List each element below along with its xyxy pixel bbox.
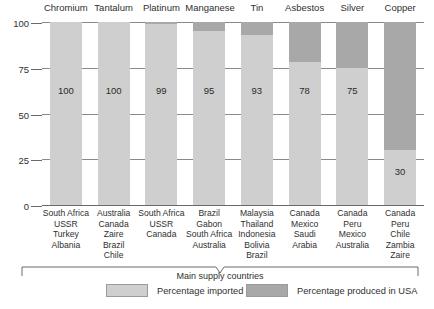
country-name: Mexico [326, 229, 380, 240]
country-name: Brazil [182, 208, 236, 219]
country-name: Australia [182, 240, 236, 251]
country-name: Zambia [373, 240, 427, 251]
country-name: Gabon [182, 219, 236, 230]
country-name: South Africa [135, 208, 189, 219]
supply-countries-silver: CanadaPeruMexicoAustralia [326, 208, 380, 250]
bar-segment-usa [193, 22, 225, 31]
ytick-label-75: 75 [18, 63, 29, 74]
ytick-label-25: 25 [18, 155, 29, 166]
tick-50 [31, 115, 42, 116]
country-name: Bolivia [230, 240, 284, 251]
ytick-label-0: 0 [24, 201, 29, 212]
commodity-label-tin: Tin [233, 2, 281, 13]
commodity-label-copper: Copper [376, 2, 424, 13]
bar-segment-usa [384, 22, 416, 150]
bar-asbestos: 78 [289, 22, 321, 205]
import-dependency-chart: ChromiumTantalumPlatinumManganeseTinAsbe… [0, 0, 434, 309]
bar-segment-imported [384, 150, 416, 205]
country-name: Chile [87, 250, 141, 261]
legend-swatch-usa [246, 284, 288, 297]
legend-item-imported: Percentage imported [106, 284, 243, 297]
country-name: Saudi [278, 229, 332, 240]
plot-area: 100 75 50 25 0 100100999593787530 [42, 22, 424, 205]
country-name: Canada [373, 208, 427, 219]
country-name: USSR [39, 219, 93, 230]
bar-tin: 93 [241, 22, 273, 205]
tick-0 [31, 206, 42, 207]
tick-100 [31, 23, 42, 24]
bar-value-asbestos: 78 [289, 85, 321, 96]
brace-caption-label: Main supply countries [20, 271, 420, 281]
bar-segment-usa [145, 22, 177, 24]
commodity-label-chromium: Chromium [42, 2, 90, 13]
country-name: Canada [278, 208, 332, 219]
country-name: Canada [87, 219, 141, 230]
bar-tantalum: 100 [98, 22, 130, 205]
country-name: Mexico [278, 219, 332, 230]
bar-silver: 75 [336, 22, 368, 205]
country-name: Canada [135, 229, 189, 240]
legend-swatch-imported [106, 284, 148, 297]
bar-segment-imported [241, 35, 273, 205]
country-name: South Africa [39, 208, 93, 219]
supply-countries-asbestos: CanadaMexicoSaudiArabia [278, 208, 332, 250]
country-name: Zaire [373, 250, 427, 261]
country-name: Malaysia [230, 208, 284, 219]
country-name: Peru [326, 219, 380, 230]
commodity-label-platinum: Platinum [138, 2, 186, 13]
legend-item-usa: Percentage produced in USA [246, 284, 417, 297]
bar-value-silver: 75 [336, 85, 368, 96]
country-name: USSR [135, 219, 189, 230]
bar-segment-imported [193, 31, 225, 205]
supply-countries-brace: Main supply countries [20, 262, 420, 284]
commodity-label-manganese: Manganese [185, 2, 233, 13]
bar-platinum: 99 [145, 22, 177, 205]
supply-countries-manganese: BrazilGabonSouth AfricaAustralia [182, 208, 236, 250]
ytick-label-100: 100 [13, 18, 29, 29]
commodity-header-row: ChromiumTantalumPlatinumManganeseTinAsbe… [42, 2, 424, 18]
bar-segment-usa [289, 22, 321, 62]
bar-value-platinum: 99 [145, 85, 177, 96]
chart-legend: Percentage imported Percentage produced … [0, 284, 434, 304]
bar-copper: 30 [384, 22, 416, 205]
country-name: Australia [326, 240, 380, 251]
supply-countries-row: South AfricaUSSRTurkeyAlbaniaAustraliaCa… [42, 208, 424, 264]
country-name: South Africa [182, 229, 236, 240]
supply-countries-platinum: South AfricaUSSRCanada [135, 208, 189, 240]
commodity-label-asbestos: Asbestos [281, 2, 329, 13]
ytick-label-50: 50 [18, 109, 29, 120]
bar-segment-imported [98, 22, 130, 205]
country-name: Albania [39, 240, 93, 251]
legend-label-usa: Percentage produced in USA [297, 286, 417, 296]
commodity-label-tantalum: Tantalum [90, 2, 138, 13]
country-name: Brazil [87, 240, 141, 251]
country-name: Arabia [278, 240, 332, 251]
bar-value-chromium: 100 [50, 85, 82, 96]
bar-value-tantalum: 100 [98, 85, 130, 96]
bar-value-manganese: 95 [193, 85, 225, 96]
legend-label-imported: Percentage imported [157, 286, 243, 296]
bar-segment-imported [50, 22, 82, 205]
country-name: Turkey [39, 229, 93, 240]
country-name: Zaire [87, 229, 141, 240]
country-name: Australia [87, 208, 141, 219]
gridline-0-baseline: 0 [42, 205, 424, 206]
bar-segment-usa [241, 22, 273, 35]
supply-countries-tin: MalaysiaThailandIndonesiaBoliviaBrazil [230, 208, 284, 261]
tick-75 [31, 69, 42, 70]
bar-manganese: 95 [193, 22, 225, 205]
bar-value-copper: 30 [384, 166, 416, 177]
country-name: Thailand [230, 219, 284, 230]
country-name: Brazil [230, 250, 284, 261]
country-name: Peru [373, 219, 427, 230]
tick-25 [31, 160, 42, 161]
supply-countries-tantalum: AustraliaCanadaZaireBrazilChile [87, 208, 141, 261]
commodity-label-silver: Silver [329, 2, 377, 13]
bar-chromium: 100 [50, 22, 82, 205]
country-name: Canada [326, 208, 380, 219]
bar-segment-usa [336, 22, 368, 68]
supply-countries-chromium: South AfricaUSSRTurkeyAlbania [39, 208, 93, 250]
bar-segment-imported [145, 24, 177, 205]
country-name: Indonesia [230, 229, 284, 240]
supply-countries-copper: CanadaPeruChileZambiaZaire [373, 208, 427, 261]
